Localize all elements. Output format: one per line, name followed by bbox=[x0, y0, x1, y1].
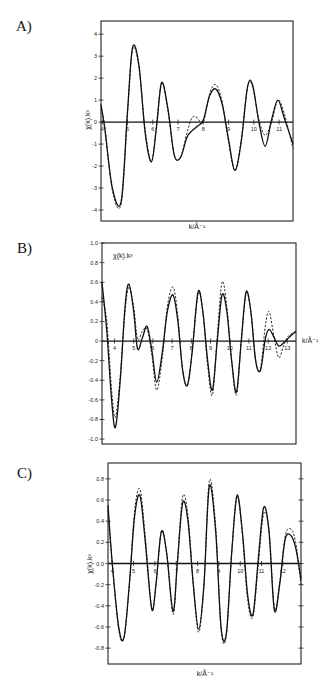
x-axis-label: k/Å⁻¹ bbox=[302, 336, 319, 344]
x-tick-label: 7 bbox=[177, 126, 180, 132]
chart-panel-2: 1.00.80.60.40.20-0.2-0.4-0.6-0.8-1.04567… bbox=[89, 240, 320, 444]
x-tick-label: 11 bbox=[276, 126, 282, 132]
x-tick-label: 6 bbox=[151, 126, 154, 132]
series-experimental bbox=[102, 282, 296, 428]
y-tick-label: -4 bbox=[92, 207, 97, 213]
x-tick-label: 10 bbox=[251, 126, 257, 132]
x-tick-label: 6 bbox=[153, 568, 156, 574]
x-tick-label: 5 bbox=[132, 568, 135, 574]
y-tick-label: -0.6 bbox=[89, 397, 98, 403]
y-tick-label: 2 bbox=[94, 75, 97, 81]
y-axis-label: χ(k).k³ bbox=[86, 554, 94, 574]
y-tick-label: -0.2 bbox=[89, 358, 98, 364]
y-tick-label: 0.6 bbox=[90, 279, 98, 285]
x-tick-label: 9 bbox=[209, 345, 212, 351]
y-tick-label: 4 bbox=[94, 31, 97, 37]
x-tick-label: 10 bbox=[237, 568, 243, 574]
y-tick-label: 1.0 bbox=[90, 240, 98, 246]
chart-panel-1: 43210-1-2-3-44567891011k/Å⁻¹χ(k).k³ bbox=[84, 21, 293, 230]
y-tick-label: -0.8 bbox=[95, 645, 104, 651]
y-tick-label: 1 bbox=[94, 97, 97, 103]
y-tick-label: -0.4 bbox=[89, 377, 98, 383]
exafs-chart-area: 43210-1-2-3-44567891011k/Å⁻¹χ(k).k³1.00.… bbox=[0, 0, 335, 689]
x-axis-label: k/Å⁻¹ bbox=[197, 669, 214, 677]
plot-frame bbox=[102, 243, 296, 444]
x-tick-label: 5 bbox=[132, 345, 135, 351]
y-tick-label: -0.8 bbox=[89, 416, 98, 422]
y-tick-label: 0 bbox=[95, 338, 98, 344]
x-tick-label: 11 bbox=[259, 568, 265, 574]
y-tick-label: -1 bbox=[92, 141, 97, 147]
y-tick-label: -0.4 bbox=[95, 603, 104, 609]
x-tick-label: 7 bbox=[171, 345, 174, 351]
y-axis-label: χ(k).k³ bbox=[113, 252, 133, 260]
x-tick-label: 13 bbox=[284, 345, 290, 351]
y-tick-label: 0.2 bbox=[96, 539, 104, 545]
x-tick-label: 12 bbox=[265, 345, 271, 351]
y-tick-label: -2 bbox=[92, 163, 97, 169]
x-tick-label: 4 bbox=[101, 126, 104, 132]
y-tick-label: 0.4 bbox=[96, 518, 104, 524]
y-tick-label: 0.2 bbox=[90, 318, 98, 324]
x-axis-label: k/Å⁻¹ bbox=[189, 222, 206, 230]
y-tick-label: -3 bbox=[92, 185, 97, 191]
x-tick-label: 8 bbox=[202, 126, 205, 132]
y-tick-label: 0.8 bbox=[96, 476, 104, 482]
plot-frame bbox=[101, 21, 293, 221]
y-tick-label: 0.8 bbox=[90, 260, 98, 266]
x-tick-label: 8 bbox=[196, 568, 199, 574]
y-tick-label: 3 bbox=[94, 53, 97, 59]
y-tick-label: -1.0 bbox=[89, 436, 98, 442]
y-tick-label: 0.4 bbox=[90, 299, 98, 305]
y-axis-label: χ(k).k³ bbox=[84, 110, 92, 130]
series-experimental bbox=[101, 45, 293, 206]
y-tick-label: -0.2 bbox=[95, 582, 104, 588]
y-tick-label: 0 bbox=[94, 119, 97, 125]
x-tick-label: 4 bbox=[113, 345, 116, 351]
y-tick-label: 0.6 bbox=[96, 497, 104, 503]
x-tick-label: 11 bbox=[246, 345, 252, 351]
chart-panel-3: 0.80.60.40.20.0-0.2-0.4-0.6-0.8456789101… bbox=[86, 463, 304, 677]
y-tick-label: 0.0 bbox=[96, 561, 104, 567]
y-tick-label: -0.6 bbox=[95, 624, 104, 630]
